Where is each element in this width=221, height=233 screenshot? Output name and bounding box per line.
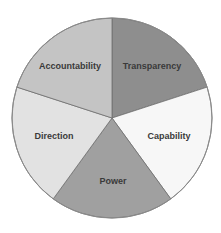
label-direction: Direction — [34, 131, 73, 141]
label-capability: Capability — [147, 131, 190, 141]
label-transparency: Transparency — [123, 61, 182, 71]
label-power: Power — [99, 176, 127, 186]
pie-slices — [12, 18, 212, 218]
pie-chart: Accountability Transparency Direction Ca… — [0, 0, 221, 233]
label-accountability: Accountability — [39, 61, 101, 71]
